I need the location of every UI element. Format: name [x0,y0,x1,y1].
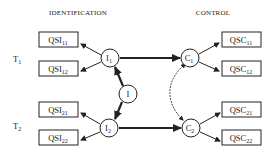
svg-text:I: I [127,89,130,99]
box-qsi12: QSI12 [39,61,78,76]
box-qsc12: QSC12 [222,61,261,76]
arrow-i1-qsi11 [81,44,101,55]
box-qsc11: QSC11 [222,32,261,47]
box-qsi21: QSI21 [39,102,78,117]
arrow-c2-qsc21 [200,113,220,124]
arrow-c1-c2-bidirectional [170,66,183,120]
node-c2: C2 [182,119,200,137]
node-i1: I1 [101,49,119,67]
box-qsc22: QSC22 [222,130,261,145]
arrow-i-i2 [115,102,122,119]
box-qsc21: QSC21 [222,102,261,117]
node-i: I [119,85,137,103]
time-label-t1: T1 [13,54,21,65]
arrow-c1-qsc11 [199,43,219,54]
arrow-i1-qsi12 [81,62,101,71]
time-label-t2: T2 [13,121,21,132]
identification-header: IDENTIFICATION [49,9,107,17]
arrow-i-i1 [115,67,123,86]
arrow-c1-qsc12 [199,62,219,71]
box-qsi11: QSI11 [39,32,78,47]
diagram-canvas: IDENTIFICATION CONTROL T1 T2 QSI11 QSI12… [0,0,278,163]
node-i2: I2 [100,119,118,137]
control-header: CONTROL [196,9,230,17]
arrow-c2-qsc22 [200,132,220,141]
arrow-i2-qsi22 [81,132,100,140]
node-c1: C1 [181,49,199,67]
box-qsi22: QSI22 [39,130,78,145]
arrow-i2-qsi21 [81,113,100,124]
